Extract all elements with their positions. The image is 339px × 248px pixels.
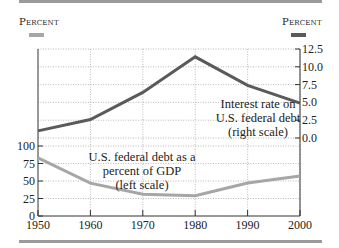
left-tick-label: 100	[17, 139, 35, 153]
interest-rate-annotation-line: U.S. federal debt	[216, 111, 301, 125]
x-tick-label: 1990	[236, 218, 260, 232]
x-tick-label: 1980	[183, 218, 207, 232]
right-tick-label: 12.5	[302, 42, 323, 56]
debt-gdp-annotation-line: U.S. federal debt as a	[89, 150, 196, 164]
right-tick-label: 10.0	[302, 60, 323, 74]
left-tick-label: 25	[23, 192, 35, 206]
interest-rate-annotation-line: (right scale)	[228, 125, 288, 139]
left-axis-ticks: 0255075100	[17, 139, 43, 223]
x-tick-label: 1970	[131, 218, 155, 232]
left-tick-label: 0	[29, 209, 35, 223]
x-tick-label: 1960	[78, 218, 102, 232]
left-tick-label: 50	[23, 174, 35, 188]
right-tick-label: 7.5	[302, 78, 317, 92]
x-tick-label: 2000	[288, 218, 312, 232]
debt-gdp-annotation-line: percent of GDP	[103, 164, 181, 178]
interest-rate-annotation-line: Interest rate on	[221, 97, 297, 111]
chart-canvas: 195019601970198019902000 0255075100 0.02…	[0, 0, 339, 248]
left-tick-label: 75	[23, 157, 35, 171]
x-axis-ticks: 195019601970198019902000	[26, 210, 312, 232]
debt-gdp-annotation-line: (left scale)	[115, 178, 168, 192]
